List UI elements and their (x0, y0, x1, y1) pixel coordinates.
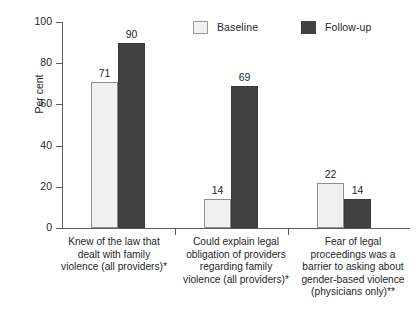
y-axis-tick-label: 80 (40, 56, 52, 68)
y-axis-tick: 80 (56, 63, 62, 64)
y-axis-tick-mark (56, 187, 62, 188)
y-axis-tick-mark (56, 146, 62, 147)
bar-followup (231, 86, 258, 228)
x-axis-category-label-line: violence (all providers)* (168, 274, 304, 287)
x-axis-category-label-line: (physicians only)** (288, 286, 418, 299)
y-axis-tick-mark (56, 22, 62, 23)
y-axis-tick: 20 (56, 187, 62, 188)
y-axis-line (62, 22, 63, 229)
y-axis-tick-mark (56, 104, 62, 105)
bar-followup (344, 199, 371, 228)
bar-baseline (91, 82, 118, 228)
y-axis-tick-label: 40 (40, 139, 52, 151)
x-axis-category-label-line: proceedings was a (288, 249, 418, 262)
x-axis-category-label-line: violence (all providers)* (48, 261, 180, 274)
y-axis-tick-mark (56, 63, 62, 64)
x-axis-category-label-line: Knew of the law that (48, 236, 180, 249)
y-axis-tick: 100 (56, 22, 62, 23)
x-axis-category-label-line: Fear of legal (288, 236, 418, 249)
y-axis-tick-mark (56, 228, 62, 229)
y-axis-tick-label: 0 (46, 221, 52, 233)
y-axis-tick-label: 100 (34, 15, 52, 27)
x-axis-line (62, 228, 410, 229)
bar-value-label: 69 (225, 71, 264, 83)
x-axis-category-label-2: Fear of legalproceedings was abarrier to… (288, 236, 418, 299)
x-axis-category-label-line: gender-based violence (288, 274, 418, 287)
bar-baseline (204, 199, 231, 228)
y-axis-title: Per cent (33, 59, 49, 129)
x-axis-category-label-1: Could explain legalobligation of provide… (168, 236, 304, 286)
y-axis-tick: 40 (56, 146, 62, 147)
y-axis-tick-label: 20 (40, 180, 52, 192)
y-axis-tick: 0 (56, 228, 62, 229)
bar-value-label: 14 (338, 184, 377, 196)
x-axis-category-label-line: regarding family (168, 261, 304, 274)
x-axis-category-label-line: barrier to asking about (288, 261, 418, 274)
bar-chart: Baseline Follow-up Per cent 020406080100… (0, 0, 419, 312)
x-axis-group-separator (175, 228, 176, 235)
bar-value-label: 90 (112, 28, 151, 40)
plot-area: 020406080100 719014692214 (62, 22, 410, 229)
bar-followup (118, 43, 145, 228)
bar-value-label: 22 (311, 168, 350, 180)
x-axis-category-label-0: Knew of the law thatdealt with familyvio… (48, 236, 180, 274)
y-axis-tick: 60 (56, 104, 62, 105)
x-axis-category-label-line: Could explain legal (168, 236, 304, 249)
x-axis-category-label-line: obligation of providers (168, 249, 304, 262)
x-axis-group-separator (288, 228, 289, 235)
y-axis-tick-label: 60 (40, 97, 52, 109)
x-axis-category-label-line: dealt with family (48, 249, 180, 262)
